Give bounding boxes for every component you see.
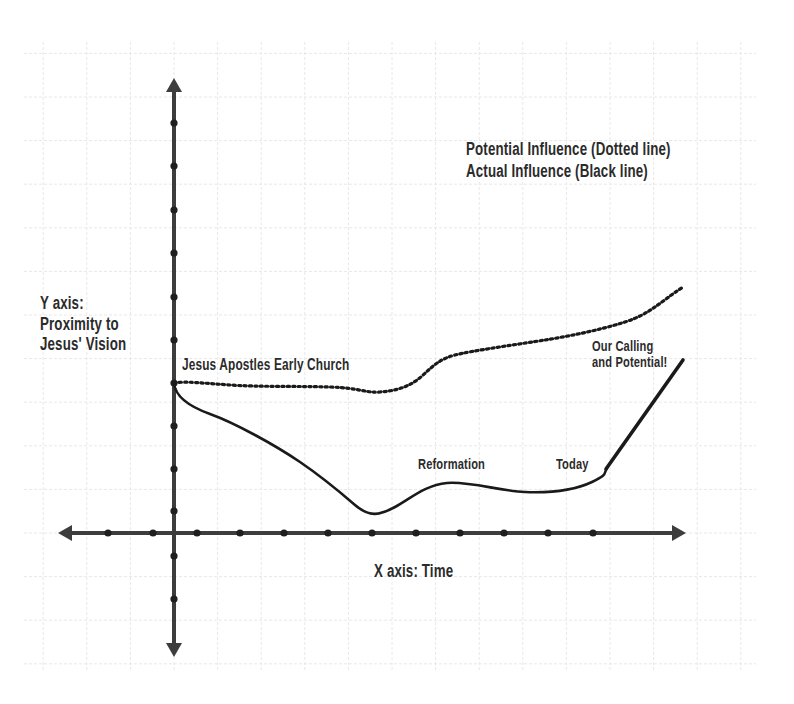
annotation-early-church: Jesus Apostles Early Church [182,356,349,374]
annotation-reformation: Reformation [418,455,485,472]
axis-tick-dots [104,119,596,602]
y-axis-top-arrow-icon [166,78,182,92]
annotation-calling-line1: Our Calling [592,338,667,354]
diagram-canvas: Potential Influence (Dotted line) Actual… [0,0,794,704]
legend-actual-label: Actual Influence (Black line) [466,161,648,182]
y-axis-label-line3: Jesus' Vision [40,334,126,355]
x-axis-label: X axis: Time [374,561,453,582]
y-axis-bottom-arrow-icon [166,643,182,657]
x-axis-left-arrow-icon [58,525,72,541]
annotation-calling: Our Calling and Potential! [592,338,667,370]
actual-influence-rise-segment [606,360,683,469]
legend-potential-label: Potential Influence (Dotted line) [466,139,671,160]
annotation-calling-line2: and Potential! [592,354,667,370]
y-axis-label: Y axis: Proximity to Jesus' Vision [40,293,126,355]
x-axis-right-arrow-icon [672,525,686,541]
annotation-today: Today [556,455,589,472]
y-axis-label-line1: Y axis: [40,293,126,314]
y-axis-label-line2: Proximity to [40,314,126,335]
